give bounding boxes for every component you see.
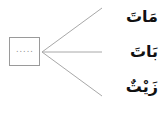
- connector-line-1: [42, 8, 102, 52]
- word-option-3: زَيْتٌ: [126, 77, 158, 97]
- word-option-2: بَاتَ: [130, 42, 158, 62]
- connector-line-3: [42, 52, 102, 96]
- word-option-1: مَاتَ: [126, 7, 158, 27]
